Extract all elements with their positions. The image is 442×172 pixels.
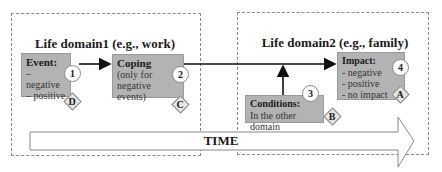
step-number-1: 1 bbox=[64, 65, 81, 82]
tag-b: B bbox=[323, 107, 341, 125]
tag-d: D bbox=[63, 92, 81, 110]
domain2-title: Life domain2 (e.g., family) bbox=[260, 35, 410, 51]
tag-a: A bbox=[391, 85, 409, 103]
tag-c: C bbox=[171, 95, 189, 113]
coping-title: Coping bbox=[117, 57, 179, 69]
conditions-line: In the other domain bbox=[250, 110, 319, 132]
event-line: – negative bbox=[26, 68, 66, 90]
time-label: TIME bbox=[171, 133, 271, 149]
domain1-title: Life domain1 (e.g., work) bbox=[30, 36, 180, 52]
event-line: – positive bbox=[26, 90, 66, 101]
step-number-3: 3 bbox=[302, 85, 319, 102]
event-title: Event: bbox=[26, 56, 66, 68]
coping-line: (only for bbox=[117, 69, 179, 80]
coping-line: negative events) bbox=[117, 80, 179, 102]
step-number-2: 2 bbox=[172, 66, 189, 83]
step-number-4: 4 bbox=[392, 59, 409, 76]
